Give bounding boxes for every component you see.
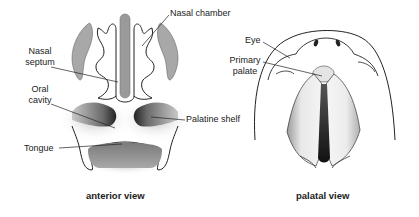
label-oral-cavity: Oral cavity [22, 84, 58, 106]
label-palatine-shelf: Palatine shelf [186, 114, 240, 125]
label-nasal-septum-line2: septum [20, 57, 60, 68]
caption-palatal-view: palatal view [296, 190, 349, 201]
label-nasal-chamber: Nasal chamber [170, 8, 231, 19]
label-primary-palate: Primary palate [226, 55, 264, 77]
diagram-artwork [0, 0, 419, 217]
label-nasal-septum-line1: Nasal [20, 46, 60, 57]
label-oral-cavity-line1: Oral [22, 84, 58, 95]
label-primary-palate-line1: Primary [226, 55, 264, 66]
label-nasal-septum: Nasal septum [20, 46, 60, 68]
palate-development-diagram: Nasal chamber Nasal septum Oral cavity P… [0, 0, 419, 217]
caption-anterior-view: anterior view [86, 190, 145, 201]
label-eye: Eye [245, 35, 261, 46]
anterior-view-drawing [51, 14, 193, 175]
palatal-view-drawing [254, 31, 395, 169]
label-tongue: Tongue [24, 143, 54, 154]
label-primary-palate-line2: palate [226, 66, 264, 77]
label-oral-cavity-line2: cavity [22, 95, 58, 106]
